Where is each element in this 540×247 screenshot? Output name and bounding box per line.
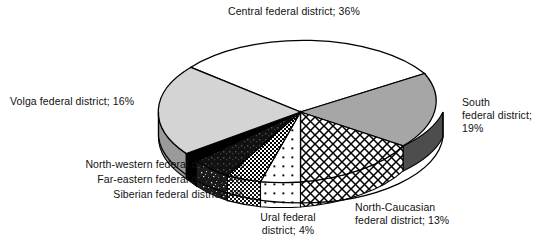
slice-label-central: Central federal district; 36% <box>228 5 360 18</box>
side-wall-ural <box>261 182 301 208</box>
pie-chart-figure: Central federal district; 36% Volga fede… <box>0 0 540 247</box>
slice-label-volga: Volga federal district; 16% <box>10 95 134 108</box>
slice-label-far-eastern: Far-eastern federal district; 4% <box>22 173 244 186</box>
slice-label-north-caucasian: North-Caucasian federal district; 13% <box>355 201 449 227</box>
pie-chart-graphic <box>0 0 540 247</box>
slice-label-north-western: North-western federal district; 1% <box>22 158 244 171</box>
slice-label-ural: Ural federal district; 4% <box>240 211 336 237</box>
slice-label-siberian: Siberian federal district; 4% <box>22 188 244 201</box>
slice-label-south: South federal district; 19% <box>462 96 532 135</box>
